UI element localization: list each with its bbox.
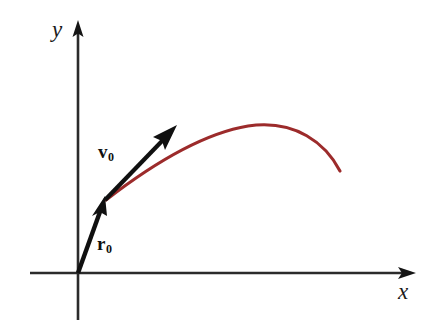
- position-vector-symbol: r: [97, 233, 105, 254]
- x-axis-label: x: [398, 280, 408, 303]
- y-axis-label: y: [52, 18, 62, 41]
- position-vector-label: r0: [97, 234, 112, 255]
- position-vector-subscript: 0: [106, 242, 112, 256]
- figure-canvas: [0, 0, 429, 326]
- velocity-vector-symbol: v: [98, 141, 108, 162]
- velocity-vector-subscript: 0: [108, 150, 114, 164]
- projectile-motion-figure: y x v0 r0: [0, 0, 429, 326]
- velocity-vector-label: v0: [98, 142, 114, 163]
